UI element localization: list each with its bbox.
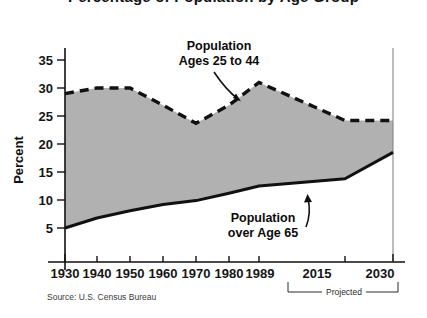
- y-tick-label-5: 5: [46, 221, 53, 236]
- y-tick-label-35: 35: [39, 53, 53, 68]
- x-tick-label-1989: 1989: [246, 266, 275, 281]
- y-tick-label-10: 10: [39, 193, 53, 208]
- source-note: Source: U.S. Census Bureau: [47, 292, 156, 302]
- annotation-over-65-line2: over Age 65: [228, 226, 298, 240]
- chart-canvas: 35 30 25 20 15 10 5 Percent 1930 1940 19…: [0, 0, 427, 318]
- chart-figure: Percentage of Population by Age Group 35…: [0, 0, 427, 318]
- x-tick-label-1980: 1980: [215, 266, 244, 281]
- annotation-arrow-upper-icon: [214, 72, 241, 102]
- annotation-ages-25-44-line1: Population: [187, 39, 252, 53]
- x-tick-marks: [65, 254, 393, 262]
- projected-label: Projected: [326, 287, 362, 297]
- fill-band: [65, 82, 393, 228]
- y-tick-label-25: 25: [39, 109, 53, 124]
- y-axis-title: Percent: [11, 135, 26, 183]
- x-tick-label-2015: 2015: [303, 266, 332, 281]
- x-tick-label-2030: 2030: [366, 266, 395, 281]
- annotation-ages-25-44-line2: Ages 25 to 44: [179, 54, 260, 68]
- x-tick-label-1930: 1930: [51, 266, 80, 281]
- y-tick-marks: [57, 60, 65, 228]
- x-tick-label-1940: 1940: [83, 266, 112, 281]
- x-tick-label-1960: 1960: [149, 266, 178, 281]
- annotation-over-65-line1: Population: [231, 211, 296, 225]
- y-tick-label-30: 30: [39, 81, 53, 96]
- y-tick-label-15: 15: [39, 165, 53, 180]
- annotation-arrow-lower-icon: [304, 194, 312, 227]
- x-tick-label-1970: 1970: [182, 266, 211, 281]
- x-tick-label-1950: 1950: [116, 266, 145, 281]
- y-tick-label-20: 20: [39, 137, 53, 152]
